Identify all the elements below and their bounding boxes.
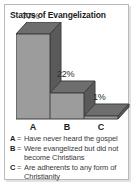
legend-text-b: Were evangelized but did not become Chri… [24,144,126,163]
bar-a [16,22,50,120]
bar-c [84,22,118,120]
legend-key-a: A [10,134,17,144]
bar-a-value-label: 77% [22,11,39,21]
bar-a-front-face [16,34,50,119]
legend-item-a: A = Have never heard the gospel [10,134,126,144]
axis-label-c: C [93,122,109,132]
legend-separator-b: = [17,144,24,154]
legend-text-a: Have never heard the gospel [24,134,118,144]
axis-label-b: B [59,122,75,132]
plot-area: 77% 22% 1% [4,22,129,120]
card-content: Status of Evangelization 77% 22% [4,4,129,180]
bar-b-value-label: 22% [57,69,74,79]
legend-key-b: B [10,144,17,154]
bar-c-shape [84,22,130,120]
legend-item-c: C = Are adherents to any form of Christi… [10,163,126,182]
evangelization-chart-card: Status of Evangelization 77% 22% [0,0,133,184]
axis-label-a: A [25,122,41,132]
legend-text-c: Are adherents to any form of Christianit… [24,163,126,182]
bar-c-value-label: 1% [93,92,106,102]
legend-separator-a: = [17,134,24,144]
legend-key-c: C [10,163,17,173]
legend-separator-c: = [17,163,24,173]
bar-c-front-face [84,116,118,119]
bar-b-front-face [50,93,84,119]
legend-item-b: B = Were evangelized but did not become … [10,144,126,163]
legend: A = Have never heard the gospel B = Were… [10,134,126,182]
